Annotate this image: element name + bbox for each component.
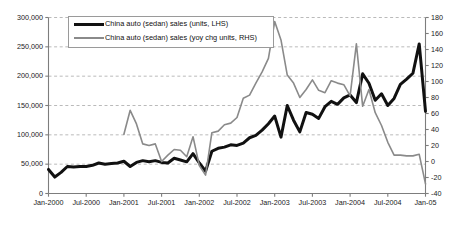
y-axis-left-tick-label: 50,000 — [0, 160, 43, 167]
legend-label-rhs: China auto (sedan) sales (yoy chg units,… — [104, 34, 257, 41]
x-axis-tick-label: Jan-05 — [401, 199, 451, 206]
y-axis-left-tick-label: 300,000 — [0, 14, 43, 21]
y-axis-left-tick-label: 250,000 — [0, 43, 43, 50]
black-line-swatch-icon — [74, 23, 104, 26]
y-axis-right-tick-label: 100 — [431, 78, 443, 85]
chart-container: China auto (sedan) sales (units, LHS) Ch… — [0, 0, 463, 228]
y-axis-right-tick-label: 20 — [431, 142, 439, 149]
y-axis-right-tick-label: 120 — [431, 62, 443, 69]
legend-item-lhs: China auto (sedan) sales (units, LHS) — [69, 17, 273, 31]
y-axis-right-tick-label: 140 — [431, 46, 443, 53]
legend-item-rhs: China auto (sedan) sales (yoy chg units,… — [69, 31, 273, 45]
y-axis-right-tick-label: 0 — [431, 158, 435, 165]
y-axis-right-tick-label: -40 — [431, 190, 441, 197]
grey-line-swatch-icon — [74, 37, 104, 39]
chart-legend: China auto (sedan) sales (units, LHS) Ch… — [68, 16, 274, 48]
y-axis-left-tick-label: 150,000 — [0, 102, 43, 109]
y-axis-right-tick-label: 180 — [431, 14, 443, 21]
series-line-lhs — [49, 44, 426, 177]
y-axis-right-tick-label: 160 — [431, 30, 443, 37]
y-axis-left-tick-label: 0 — [0, 190, 43, 197]
y-axis-left-tick-label: 200,000 — [0, 72, 43, 79]
y-axis-right-tick-label: -20 — [431, 174, 441, 181]
y-axis-right-tick-label: 40 — [431, 126, 439, 133]
y-axis-right-tick-label: 80 — [431, 94, 439, 101]
y-axis-right-tick-label: 60 — [431, 110, 439, 117]
legend-label-lhs: China auto (sedan) sales (units, LHS) — [104, 20, 228, 27]
y-axis-left-tick-label: 100,000 — [0, 131, 43, 138]
